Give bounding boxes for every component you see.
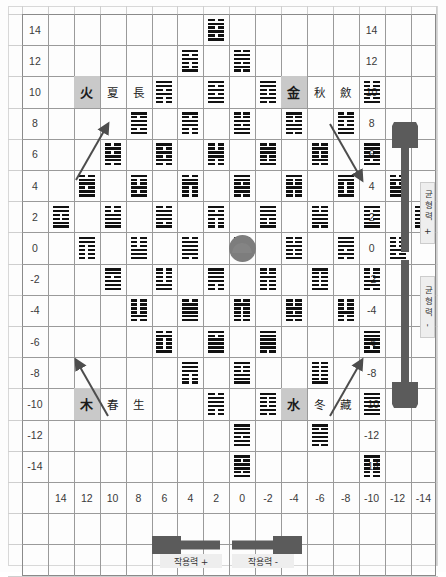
arrow-lower-left [70, 350, 116, 422]
hexagram-line [79, 194, 95, 196]
hexagram-line [156, 206, 172, 208]
hexagram-line [364, 101, 380, 103]
balance-arrow-negative [392, 258, 418, 408]
hexagram-line [208, 225, 224, 227]
hexagram-line [364, 475, 380, 477]
hexagram-line [131, 257, 147, 259]
hexagram-line [260, 81, 276, 83]
hexagram-line [182, 299, 198, 301]
hexagram-glyph [286, 175, 302, 197]
hexagram-glyph [364, 268, 380, 290]
hexagram-glyph [234, 455, 250, 477]
hexagram-line [234, 182, 250, 184]
hexagram-line [260, 350, 276, 352]
hexagram-line [208, 284, 224, 286]
y-axis-title-positive: 균형력 + [420, 182, 435, 244]
x-axis-label--6: -6 [307, 482, 333, 513]
action-arrow-positive [152, 536, 222, 554]
hexagram-line [156, 276, 172, 278]
hexagram-line [131, 112, 147, 114]
hexagram-line [156, 151, 172, 153]
hexagram-line [156, 350, 172, 352]
x-axis-label--12: -12 [385, 482, 411, 513]
hexagram-line [79, 257, 95, 259]
hexagram-line [156, 222, 172, 224]
hexagram-line [182, 128, 198, 130]
hexagram-line [364, 210, 380, 212]
hexagram-line [260, 143, 276, 145]
hexagram-line [182, 116, 198, 118]
hexagram-line [105, 218, 121, 220]
hexagram-glyph [131, 299, 147, 321]
hexagram-glyph [208, 206, 224, 228]
hexagram-line [131, 132, 147, 134]
hexagram-line [364, 214, 380, 216]
hexagram-line [286, 120, 302, 122]
hexagram-line [182, 249, 198, 251]
hexagram-line [182, 182, 198, 184]
y-axis-label-left--4: -4 [22, 295, 48, 326]
hexagram-line [131, 194, 147, 196]
hexagram-line [286, 319, 302, 321]
hexagram-line [234, 436, 250, 438]
hexagram-line [234, 428, 250, 430]
hexagram-line [364, 342, 380, 344]
hexagram-line [208, 268, 224, 270]
hexagram-line [156, 143, 172, 145]
hexagram-line [364, 346, 380, 348]
hexagram-line [338, 241, 354, 243]
hexagram-line [182, 237, 198, 239]
hexagram-line [338, 186, 354, 188]
x-axis-label-8: 8 [126, 482, 152, 513]
hexagram-line [131, 128, 147, 130]
hexagram-line [156, 214, 172, 216]
hexagram-line [338, 237, 354, 239]
hexagram-glyph [208, 19, 224, 41]
hexagram-line [131, 245, 147, 247]
hexagram-line [182, 54, 198, 56]
y-axis-label-left--10: -10 [22, 388, 48, 419]
hexagram-line [131, 307, 147, 309]
hexagram-line [364, 218, 380, 220]
season-cell-fire: 夏 [100, 76, 126, 107]
hexagram-line [156, 97, 172, 99]
hexagram-line [208, 206, 224, 208]
hexagram-line [105, 268, 121, 270]
table-line-horizontal [22, 513, 436, 514]
hexagram-line [208, 85, 224, 87]
hexagram-line [208, 350, 224, 352]
hexagram-line [208, 38, 224, 40]
hexagram-glyph [312, 424, 328, 446]
hexagram-line [208, 272, 224, 274]
hexagram-line [364, 459, 380, 461]
hexagram-line [338, 257, 354, 259]
y-axis-label-left-10: 10 [22, 76, 48, 107]
x-axis-label--14: -14 [411, 482, 437, 513]
hexagram-line [208, 81, 224, 83]
hexagram-line [260, 225, 276, 227]
hexagram-line [156, 225, 172, 227]
hexagram-line [338, 315, 354, 317]
hexagram-line [156, 89, 172, 91]
hexagram-line [312, 444, 328, 446]
hexagram-line [131, 249, 147, 251]
hexagram-line [156, 85, 172, 87]
hexagram-line [208, 346, 224, 348]
hexagram-line [208, 413, 224, 415]
y-axis-label-left--2: -2 [22, 264, 48, 295]
hexagram-line [260, 276, 276, 278]
hexagram-line [234, 455, 250, 457]
hexagram-line [208, 338, 224, 340]
x-axis-title-positive: 작용력 + [160, 554, 222, 568]
hexagram-line [260, 288, 276, 290]
element-cell-metal: 金 [281, 76, 307, 107]
hexagram-line [364, 284, 380, 286]
hexagram-line [286, 241, 302, 243]
hexagram-line [234, 120, 250, 122]
hexagram-line [338, 194, 354, 196]
hexagram-line [234, 467, 250, 469]
hexagram-line [234, 112, 250, 114]
hexagram-line [156, 331, 172, 333]
hexagram-line [156, 81, 172, 83]
hexagram-glyph [260, 143, 276, 165]
